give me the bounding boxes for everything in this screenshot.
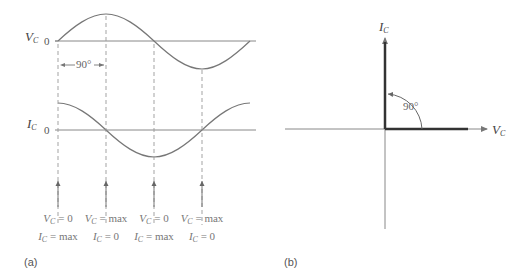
phasor-panel: [285, 38, 487, 229]
dashed-guides: [58, 16, 202, 225]
voltage-zero-label: 0: [44, 35, 50, 47]
panel-a-caption: (a): [24, 256, 37, 268]
angle-label: 90°: [403, 101, 418, 112]
marker-arrows: [58, 181, 202, 207]
waveform-panel: [55, 14, 256, 225]
current-axis-label: IC: [27, 117, 37, 132]
condition-4: VC = max IC = 0: [167, 211, 237, 247]
phase-label: 90°: [76, 59, 91, 70]
voltage-phasor-label: VC: [492, 123, 505, 138]
panel-b-caption: (b): [284, 256, 297, 268]
current-phasor-label: IC: [379, 20, 389, 35]
current-zero-label: 0: [44, 124, 50, 136]
voltage-axis-label: VC: [25, 30, 38, 45]
